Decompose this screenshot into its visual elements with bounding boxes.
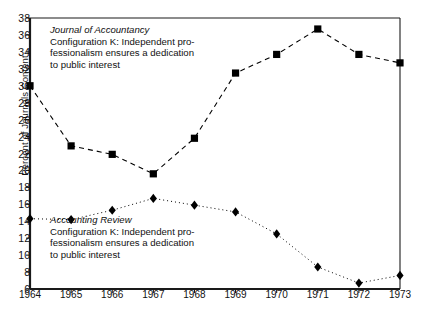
y-tick-label: 16 bbox=[18, 198, 30, 210]
data-point-square bbox=[273, 51, 280, 58]
y-tick-label: 28 bbox=[18, 97, 30, 109]
data-point-square bbox=[150, 170, 157, 177]
data-point-diamond bbox=[191, 201, 198, 210]
data-point-diamond bbox=[355, 278, 362, 287]
data-point-square bbox=[396, 59, 403, 66]
annotation-line: Configuration K: Independent pro- bbox=[50, 226, 195, 238]
x-tick-label: 1970 bbox=[266, 289, 288, 300]
data-point-diamond bbox=[273, 229, 280, 238]
x-tick-label: 1971 bbox=[307, 289, 329, 300]
y-tick-label: 10 bbox=[18, 249, 30, 261]
annotation-line: fessionalism ensures a dedication bbox=[50, 237, 195, 249]
y-tick-label: 14 bbox=[18, 215, 30, 227]
annotation-line: fessionalism ensures a dedication bbox=[50, 47, 195, 59]
y-tick-label: 30 bbox=[18, 80, 30, 92]
y-tick-label: 38 bbox=[18, 12, 30, 24]
y-tick-label: 36 bbox=[18, 29, 30, 41]
annotation-line: Configuration K: Independent pro- bbox=[50, 36, 195, 48]
chart-container: Percent of Journals Content 383634323028… bbox=[0, 0, 422, 318]
data-point-square bbox=[314, 25, 321, 32]
data-point-square bbox=[68, 142, 75, 149]
data-point-diamond bbox=[396, 271, 403, 280]
y-tick-label: 34 bbox=[18, 46, 30, 58]
y-tick-label: 22 bbox=[18, 148, 30, 160]
data-point-square bbox=[232, 69, 239, 76]
data-point-diamond bbox=[314, 262, 321, 271]
x-tick-label: 1967 bbox=[142, 289, 164, 300]
x-tick-label: 1973 bbox=[389, 289, 411, 300]
annotation-accounting-review: Accounting ReviewConfiguration K: Indepe… bbox=[50, 214, 195, 260]
data-point-diamond bbox=[232, 207, 239, 216]
y-tick-label: 18 bbox=[18, 181, 30, 193]
x-tick-label: 1972 bbox=[348, 289, 370, 300]
y-tick-label: 20 bbox=[18, 164, 30, 176]
data-point-diamond bbox=[150, 194, 157, 203]
x-tick-label: 1964 bbox=[19, 289, 41, 300]
data-point-square bbox=[109, 151, 116, 158]
annotation-line: to public interest bbox=[50, 249, 195, 261]
y-tick-label: 26 bbox=[18, 114, 30, 126]
y-tick-label: 8 bbox=[24, 266, 30, 278]
annotation-journal-of-accountancy: Journal of AccountancyConfiguration K: I… bbox=[50, 24, 195, 70]
x-tick-label: 1968 bbox=[183, 289, 205, 300]
annotation-title: Journal of Accountancy bbox=[50, 24, 195, 36]
data-point-square bbox=[191, 135, 198, 142]
x-tick-label: 1969 bbox=[224, 289, 246, 300]
x-tick-label: 1965 bbox=[60, 289, 82, 300]
data-point-square bbox=[355, 51, 362, 58]
y-axis-tick-labels: 38363432302826242220181614121086 bbox=[0, 0, 30, 318]
x-axis-tick-labels: 1964196519661967196819691970197119721973 bbox=[0, 289, 422, 309]
y-tick-label: 24 bbox=[18, 131, 30, 143]
y-tick-label: 12 bbox=[18, 232, 30, 244]
annotation-title: Accounting Review bbox=[50, 214, 195, 226]
x-tick-label: 1966 bbox=[101, 289, 123, 300]
y-tick-label: 32 bbox=[18, 63, 30, 75]
annotation-line: to public interest bbox=[50, 59, 195, 71]
